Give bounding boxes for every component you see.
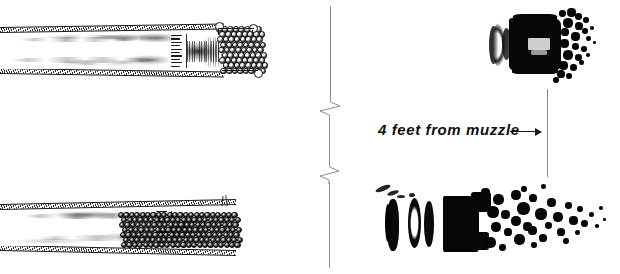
dispersed-pellet (529, 194, 537, 202)
dispersed-pellet (577, 206, 583, 212)
scattered-pellet (561, 28, 569, 36)
powder-gas-wisp (126, 55, 168, 65)
dispersed-pellet (499, 244, 506, 251)
dispersed-pellet (491, 222, 501, 232)
powder-gas-wisp (18, 37, 138, 42)
dispersed-pellet (487, 206, 499, 218)
scattered-pellet (586, 53, 590, 57)
dispersed-pellet (565, 202, 572, 209)
wad-bar (408, 198, 421, 248)
shot-column-boundary (222, 70, 258, 71)
powder-gas-wisp (10, 57, 160, 63)
dispersed-pellet (557, 228, 565, 236)
dispersed-pellet (531, 242, 537, 248)
dispersed-pellet (493, 194, 504, 205)
distance-annotation-label: 4 feet from muzzle (378, 122, 520, 137)
scattered-pellet (553, 77, 559, 83)
scattered-pellet (566, 73, 572, 79)
shot-mass-highlight (531, 50, 547, 55)
dispersed-pellet (514, 234, 525, 245)
barrel-cross-section-top (0, 18, 270, 80)
scattered-pellet (572, 43, 579, 50)
powder-gas-wisp (14, 239, 94, 243)
wad-bar (424, 201, 434, 247)
dispersed-pellet (528, 226, 537, 235)
dispersed-pellet (563, 238, 569, 244)
break-mark-icon (318, 164, 342, 184)
powder-gas-wisp (42, 35, 134, 39)
wad-marks-top (171, 35, 183, 67)
dispersed-pellet (589, 212, 594, 217)
scattered-pellet (571, 32, 580, 41)
dispersed-pellet (547, 198, 556, 207)
scattered-pellet (586, 36, 591, 41)
scattered-pellet (581, 46, 587, 52)
shot-column-corner-ring (215, 22, 224, 31)
dispersed-pellet (501, 210, 510, 219)
barrel-wall-lower-top (0, 68, 224, 78)
dispersed-pellet (535, 208, 547, 220)
barrel-wall-upper-top (0, 23, 224, 33)
dispersed-pellet (581, 220, 588, 227)
scattered-pellet (560, 39, 569, 48)
dispersed-pellet (485, 237, 496, 248)
scattered-pellet (590, 26, 594, 30)
dispersed-pellet (575, 230, 580, 235)
scattered-pellet (593, 41, 596, 44)
break-line-segment (329, 119, 330, 167)
scattered-pellet (563, 18, 573, 28)
barrel-bore-top (0, 33, 224, 69)
arrow-right-icon (535, 128, 542, 136)
break-line-segment (330, 6, 331, 100)
dispersed-pellet (511, 216, 521, 226)
shot-column-stem (218, 28, 219, 35)
break-mark-icon (318, 98, 342, 120)
scattered-pellet (559, 61, 568, 70)
dispersed-pellet (553, 212, 563, 222)
dispersed-pellet (511, 190, 521, 200)
vertical-break-line (318, 6, 342, 268)
scattered-pellet (583, 17, 589, 23)
shot-column-bottom (118, 212, 278, 250)
shot-pattern-photograph-top (487, 8, 602, 86)
muzzle-distance-reference-line (547, 89, 548, 177)
break-line-segment (329, 182, 330, 268)
dispersed-pellet (603, 218, 606, 221)
scattered-pellet (579, 60, 584, 65)
dispersed-pellet (539, 234, 547, 242)
scattered-pellet (559, 10, 566, 17)
shot-mass-core (513, 14, 557, 26)
scattered-pellet (582, 28, 588, 34)
dispersed-pellet (569, 216, 578, 225)
shot-column-boundary (218, 28, 254, 29)
scattered-pellet (563, 50, 573, 60)
dispersed-pellet (595, 224, 599, 228)
dispersed-pellet (521, 186, 527, 192)
wad-body-edge-top (186, 34, 187, 68)
scattered-pellet (575, 13, 582, 20)
leading-wisp (397, 195, 405, 198)
powder-gas-wisp (58, 60, 138, 65)
powder-gas-wisp (52, 211, 122, 219)
distance-arrow-shaft (510, 131, 536, 132)
leading-wisp (409, 193, 415, 197)
wad-bar (385, 204, 391, 242)
scattered-pellet (570, 64, 577, 71)
shot-mass-highlight (528, 38, 550, 50)
dispersed-pellet (481, 188, 490, 197)
dispersed-pellet (504, 228, 512, 236)
barrel-wall-upper-bottom (0, 199, 236, 210)
dispersed-pellet (541, 184, 546, 189)
barrel-cross-section-bottom (0, 192, 280, 254)
shot-mass-core (512, 64, 558, 74)
dispersed-pellet (545, 222, 552, 229)
powder-gas-wisp (96, 34, 152, 41)
shot-pattern-figure: 4 feet from muzzle (0, 0, 620, 274)
shot-pellet (234, 242, 240, 248)
dispersed-pellet (599, 206, 603, 210)
dispersed-pellet (517, 202, 530, 215)
shot-pattern-photograph-bottom (371, 182, 611, 258)
shot-column-stem (252, 30, 253, 37)
